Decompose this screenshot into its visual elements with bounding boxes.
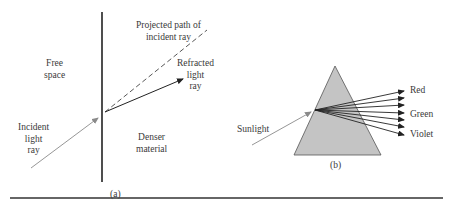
- label-sunlight: Sunlight: [237, 124, 269, 136]
- label-denser-material: Denser material: [136, 132, 167, 155]
- label-free-space: Free space: [44, 58, 65, 81]
- label-denser-line1: Denser: [136, 132, 167, 144]
- label-violet: Violet: [410, 129, 433, 141]
- label-incident-line3: ray: [18, 145, 49, 157]
- label-projected-line2: incident ray: [136, 32, 201, 44]
- label-denser-line2: material: [136, 144, 167, 156]
- label-green: Green: [410, 109, 433, 121]
- caption-a: (a): [110, 189, 121, 201]
- figure-b: [252, 66, 404, 155]
- label-projected-line1: Projected path of: [136, 20, 201, 32]
- label-red: Red: [410, 85, 425, 97]
- label-refracted-light-ray: Refracted light ray: [177, 58, 214, 93]
- label-projected-path: Projected path of incident ray: [136, 20, 201, 43]
- label-refracted-line1: Refracted: [177, 58, 214, 70]
- caption-b: (b): [330, 160, 341, 172]
- diagram-canvas: [0, 0, 453, 216]
- label-refracted-line3: ray: [177, 81, 214, 93]
- label-incident-light-ray: Incident light ray: [18, 122, 49, 157]
- label-refracted-line2: light: [177, 70, 214, 82]
- label-free-space-line2: space: [44, 70, 65, 82]
- refracted-ray-arrow: [105, 79, 183, 112]
- label-incident-line2: light: [18, 134, 49, 146]
- label-incident-line1: Incident: [18, 122, 49, 134]
- label-free-space-line1: Free: [44, 58, 65, 70]
